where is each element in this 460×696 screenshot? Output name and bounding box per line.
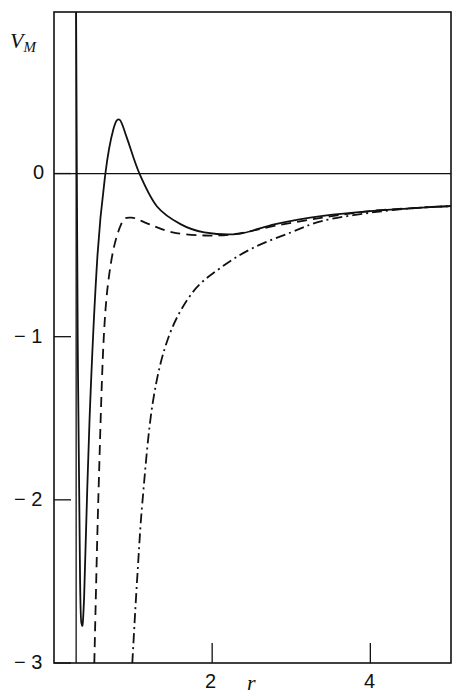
x-axis-label: r xyxy=(247,670,256,696)
ytick-label-minus2: − 2 xyxy=(14,488,42,511)
ytick-label-0: 0 xyxy=(33,161,44,184)
plot-frame xyxy=(54,12,451,663)
y-axis-label-subscript: M xyxy=(23,39,36,55)
ytick-label-minus3: − 3 xyxy=(14,651,42,674)
dashdot-curve xyxy=(132,206,451,663)
y-axis-label-main: V xyxy=(10,28,23,53)
potential-chart xyxy=(0,0,460,696)
solid-curve xyxy=(76,12,451,626)
ytick-label-minus1: − 1 xyxy=(14,325,42,348)
y-axis-label: VM xyxy=(10,28,36,56)
xtick-label-4: 4 xyxy=(364,670,375,693)
xtick-label-2: 2 xyxy=(205,670,216,693)
